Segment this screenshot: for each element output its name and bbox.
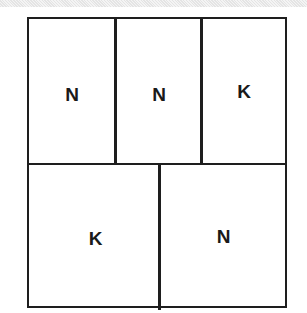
cell-label: N xyxy=(217,227,231,246)
cell-bottom-1: K xyxy=(29,165,162,311)
top-band xyxy=(0,0,307,7)
cell-top-3: K xyxy=(201,19,287,163)
cell-label: N xyxy=(65,85,79,104)
cell-top-1: N xyxy=(29,19,115,169)
cell-label: K xyxy=(89,229,103,248)
cell-top-2: N xyxy=(116,19,202,169)
cell-bottom-2: N xyxy=(160,165,287,307)
cell-grid: N N K K N xyxy=(27,17,287,308)
cell-label: K xyxy=(237,82,251,101)
cell-label: N xyxy=(152,85,166,104)
